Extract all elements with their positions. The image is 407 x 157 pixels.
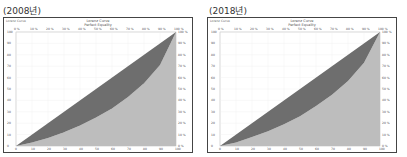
svg-text:70: 70 [127,147,131,151]
svg-text:100 %: 100 % [174,27,184,31]
svg-text:0 %: 0 % [14,27,20,31]
svg-text:60: 60 [7,76,11,80]
svg-text:30 %: 30 % [62,27,70,31]
svg-text:50 %: 50 % [298,27,306,31]
svg-text:60: 60 [111,147,115,151]
svg-text:60 %: 60 % [110,27,118,31]
svg-text:100: 100 [211,30,217,34]
svg-text:60 %: 60 % [314,27,322,31]
svg-text:30: 30 [211,110,215,114]
lorenz-chart-2008: Lorenz Curve Lorenz CurvePerfect Equalit… [3,17,193,153]
svg-text:90: 90 [211,41,215,45]
svg-text:60: 60 [315,147,319,151]
svg-text:50 %: 50 % [382,87,390,91]
lorenz-plot: 0 %0 %0010 %10 %101020 %20 %202030 %30 %… [4,18,192,152]
svg-text:10 %: 10 % [382,133,390,137]
svg-text:10: 10 [211,133,215,137]
svg-text:20: 20 [7,121,11,125]
svg-text:80: 80 [347,147,351,151]
svg-text:20 %: 20 % [178,121,186,125]
lorenz-chart-2018: Lorenz Curve Lorenz CurvePerfect Equalit… [207,17,397,153]
svg-text:20: 20 [251,147,255,151]
svg-text:30 %: 30 % [382,110,390,114]
lorenz-plot: 0 %0 %0010 %10 %101020 %20 %202030 %30 %… [208,18,396,152]
svg-text:0: 0 [219,147,221,151]
svg-text:100: 100 [175,147,181,151]
svg-text:40 %: 40 % [78,27,86,31]
svg-text:40 %: 40 % [178,98,186,102]
svg-text:20: 20 [211,121,215,125]
svg-text:90 %: 90 % [158,27,166,31]
svg-text:50: 50 [95,147,99,151]
svg-text:20: 20 [47,147,51,151]
svg-text:10 %: 10 % [234,27,242,31]
year-label-2018: (2018년) [209,4,247,17]
svg-text:30 %: 30 % [178,110,186,114]
svg-text:40 %: 40 % [282,27,290,31]
svg-text:80 %: 80 % [382,53,390,57]
svg-text:40: 40 [211,98,215,102]
svg-text:80 %: 80 % [142,27,150,31]
svg-text:50: 50 [299,147,303,151]
svg-text:20 %: 20 % [46,27,54,31]
svg-text:70 %: 70 % [330,27,338,31]
svg-text:0: 0 [15,147,17,151]
svg-text:20 %: 20 % [382,121,390,125]
svg-text:30 %: 30 % [266,27,274,31]
svg-text:80: 80 [7,53,11,57]
svg-text:60 %: 60 % [178,76,186,80]
svg-text:90: 90 [363,147,367,151]
svg-text:70: 70 [211,64,215,68]
svg-text:100 %: 100 % [378,27,388,31]
svg-text:90 %: 90 % [178,41,186,45]
svg-text:50: 50 [211,87,215,91]
svg-text:10 %: 10 % [30,27,38,31]
svg-text:10: 10 [7,133,11,137]
svg-text:70 %: 70 % [178,64,186,68]
svg-text:30: 30 [267,147,271,151]
svg-text:50 %: 50 % [94,27,102,31]
svg-text:70: 70 [331,147,335,151]
svg-text:40: 40 [283,147,287,151]
svg-text:90: 90 [7,41,11,45]
svg-text:80: 80 [143,147,147,151]
svg-text:60: 60 [211,76,215,80]
svg-text:60 %: 60 % [382,76,390,80]
svg-text:50: 50 [7,87,11,91]
svg-text:80 %: 80 % [346,27,354,31]
svg-text:70: 70 [7,64,11,68]
year-label-2008: (2008년) [3,4,41,17]
svg-text:90 %: 90 % [382,41,390,45]
svg-text:30: 30 [63,147,67,151]
svg-text:40 %: 40 % [382,98,390,102]
svg-text:0 %: 0 % [218,27,224,31]
svg-text:40: 40 [7,98,11,102]
svg-text:90: 90 [159,147,163,151]
svg-text:10: 10 [31,147,35,151]
svg-text:90 %: 90 % [362,27,370,31]
svg-text:30: 30 [7,110,11,114]
svg-text:0: 0 [7,144,9,148]
svg-text:50 %: 50 % [178,87,186,91]
svg-text:100: 100 [379,147,385,151]
svg-text:0: 0 [211,144,213,148]
svg-text:20 %: 20 % [250,27,258,31]
svg-text:10: 10 [235,147,239,151]
svg-text:70 %: 70 % [382,64,390,68]
svg-text:10 %: 10 % [178,133,186,137]
svg-text:40: 40 [79,147,83,151]
svg-text:70 %: 70 % [126,27,134,31]
svg-text:80: 80 [211,53,215,57]
svg-text:100: 100 [7,30,13,34]
svg-text:80 %: 80 % [178,53,186,57]
